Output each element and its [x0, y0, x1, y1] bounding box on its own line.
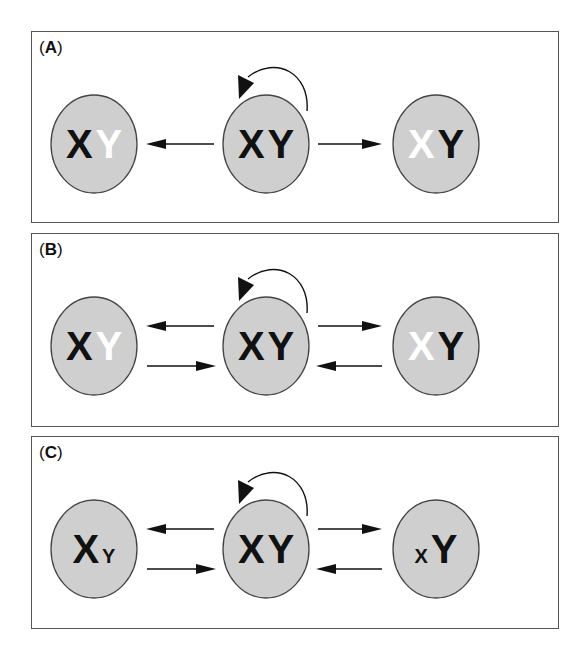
cell-center: X Y [223, 297, 309, 395]
arrow-left-to-center-icon [147, 361, 216, 371]
cell-left: X Y [51, 297, 137, 395]
gene-x-label: X [238, 122, 265, 166]
gene-x-label: X [415, 545, 429, 567]
gene-y-label: Y [437, 324, 464, 368]
cell-right: X Y [393, 297, 479, 395]
gene-x-label: X [238, 324, 265, 368]
gene-y-label: Y [431, 527, 458, 571]
cell-center: X Y [223, 500, 309, 598]
panel-c: (C)X YX YX Y [31, 436, 559, 629]
arrow-center-to-left-icon [146, 139, 214, 149]
panel-b: (B)X YX YX Y [31, 233, 559, 427]
arrow-center-to-right-icon [318, 524, 382, 534]
gene-y-label: Y [437, 122, 464, 166]
gene-x-label: X [408, 324, 435, 368]
diagram-canvas: X YX YX Y [32, 437, 560, 630]
cell-right: X Y [393, 500, 479, 598]
cell-right: X Y [393, 95, 479, 193]
gene-x-label: X [73, 527, 100, 571]
cell-left: X Y [51, 500, 137, 598]
diagram-canvas: X YX YX Y [32, 234, 560, 428]
arrow-center-to-left-icon [146, 321, 214, 331]
gene-x-label: X [66, 324, 93, 368]
gene-y-label: Y [95, 122, 122, 166]
cell-center: X Y [223, 95, 309, 193]
arrow-center-to-right-icon [318, 321, 382, 331]
gene-x-label: X [66, 122, 93, 166]
arrow-right-to-center-icon [316, 361, 382, 371]
gene-y-label: Y [267, 122, 294, 166]
arrow-center-to-right-icon [318, 139, 382, 149]
diagram-canvas: X YX YX Y [32, 32, 560, 224]
gene-y-label: Y [102, 545, 116, 567]
panel-a: (A)X YX YX Y [31, 31, 559, 223]
arrow-right-to-center-icon [316, 564, 382, 574]
gene-y-label: Y [267, 527, 294, 571]
gene-x-label: X [238, 527, 265, 571]
gene-x-label: X [408, 122, 435, 166]
gene-y-label: Y [95, 324, 122, 368]
arrow-center-to-left-icon [146, 524, 214, 534]
gene-y-label: Y [267, 324, 294, 368]
cell-left: X Y [51, 95, 137, 193]
arrow-left-to-center-icon [147, 564, 216, 574]
